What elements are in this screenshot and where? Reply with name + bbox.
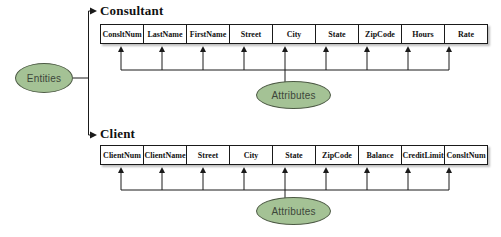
entities-label: Entities [27,73,61,84]
attributes-label: Attributes [271,206,315,217]
entities-ellipse: Entities [15,63,73,93]
column-header-hours: Hours [401,24,445,44]
column-header-consltnum: ConsltNum [444,145,488,165]
attributes-label: Attributes [271,90,315,101]
column-header-city: City [229,145,273,165]
column-header-consltnum: ConsltNum [100,24,144,44]
entity-title-consultant: Consultant [100,3,163,19]
column-header-street: Street [186,145,230,165]
column-header-lastname: LastName [143,24,187,44]
entity-title-client: Client [100,126,135,142]
column-header-state: State [272,145,316,165]
er-concept-diagram: Entities Consultant ConsltNumLastNameFir… [0,0,501,237]
attributes-ellipse-consultant: Attributes [256,81,331,109]
column-header-state: State [315,24,359,44]
column-header-zipcode: ZipCode [315,145,359,165]
column-header-balance: Balance [358,145,402,165]
column-header-city: City [272,24,316,44]
column-header-firstname: FirstName [186,24,230,44]
arrowhead-to-consultant [90,8,97,15]
column-header-street: Street [229,24,273,44]
arrowhead-to-client [90,132,97,139]
consultant-attribute-table: ConsltNumLastNameFirstNameStreetCityStat… [100,24,488,44]
column-header-clientnum: ClientNum [100,145,144,165]
column-header-clientname: ClientName [143,145,187,165]
attributes-ellipse-client: Attributes [256,197,331,225]
column-header-zipcode: ZipCode [358,24,402,44]
column-header-rate: Rate [444,24,488,44]
client-attribute-table: ClientNumClientNameStreetCityStateZipCod… [100,145,488,165]
column-header-creditlimit: CreditLimit [401,145,445,165]
